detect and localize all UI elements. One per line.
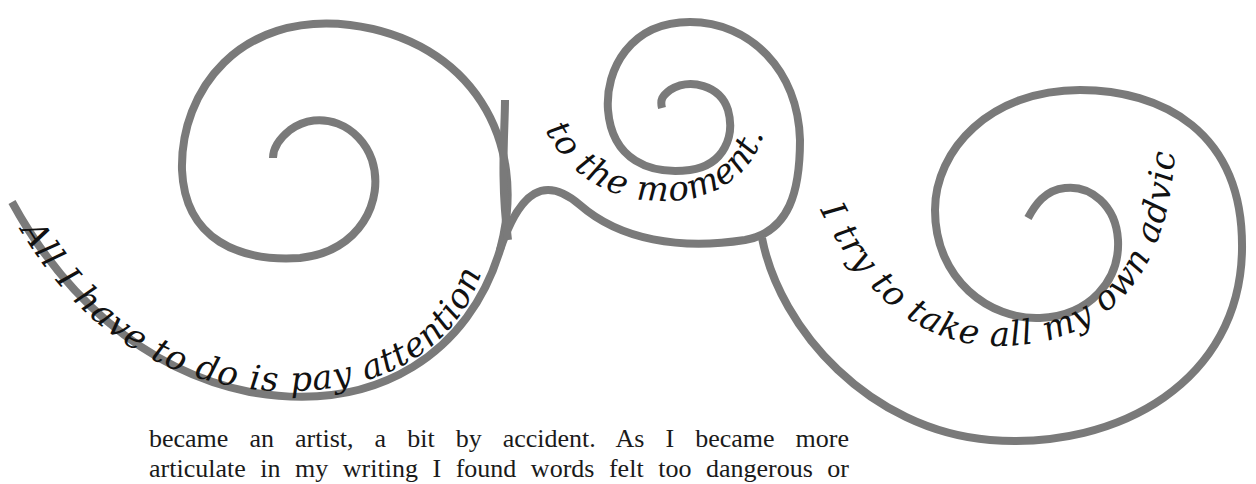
middle-swirl (503, 100, 508, 240)
quote-segment-1: All I have to do is pay attention (12, 210, 490, 399)
body-line: became an artist, a bit by accident. As … (149, 424, 849, 454)
body-paragraph: became an artist, a bit by accident. As … (149, 424, 849, 484)
body-line: articulate in my writing I found words f… (149, 454, 849, 484)
right-swirl (762, 90, 1242, 441)
